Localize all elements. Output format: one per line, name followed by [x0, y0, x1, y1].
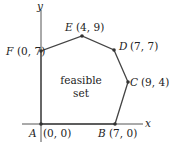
vertex-b-label: B (7, 0)	[97, 127, 137, 139]
svg-text:B: B	[97, 127, 106, 139]
svg-text:E: E	[64, 21, 73, 33]
svg-text:F: F	[5, 45, 14, 57]
svg-text:C: C	[130, 76, 138, 88]
x-axis-label: x	[145, 117, 151, 129]
svg-text:(7, 7): (7, 7)	[130, 40, 158, 52]
vertex-a-label: A (0, 0)	[28, 127, 71, 139]
y-axis-label: y	[36, 0, 44, 12]
feasible-set-diagram: x y A (0, 0) B (7, 0) C (9, 4) D (7, 7) …	[0, 0, 169, 144]
svg-text:D: D	[118, 40, 128, 52]
svg-text:(4, 9): (4, 9)	[76, 21, 104, 33]
region-label-line1: feasible	[60, 74, 101, 86]
vertex-b-point	[113, 122, 117, 126]
svg-text:(0, 7): (0, 7)	[17, 45, 45, 57]
vertex-a-point	[39, 122, 43, 126]
vertex-e-point	[80, 34, 84, 38]
vertex-d-label: D (7, 7)	[118, 40, 158, 52]
vertex-d-point	[112, 48, 116, 52]
vertex-f-label: F (0, 7)	[5, 45, 45, 57]
vertex-c-label: C (9, 4)	[130, 76, 169, 88]
svg-text:(0, 0): (0, 0)	[43, 127, 71, 139]
region-label-line2: set	[73, 87, 90, 99]
svg-text:A: A	[28, 127, 37, 139]
svg-text:(7, 0): (7, 0)	[109, 127, 137, 139]
svg-text:(9, 4): (9, 4)	[141, 76, 169, 88]
vertex-e-label: E (4, 9)	[64, 21, 104, 33]
